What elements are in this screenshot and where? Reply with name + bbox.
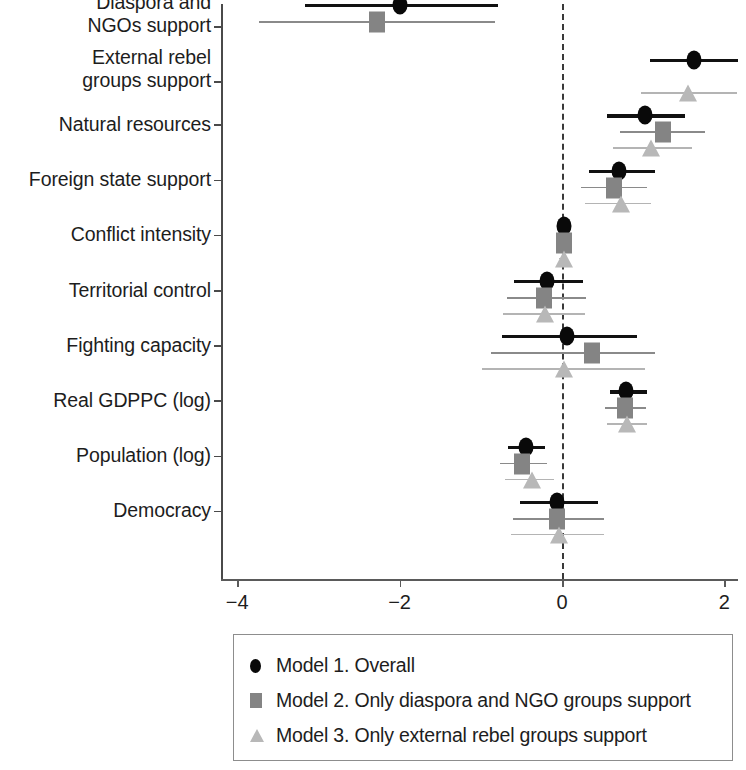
y-axis-tick (214, 400, 221, 402)
y-axis-tick (214, 81, 221, 83)
y-axis-label: Conflict intensity (0, 223, 211, 246)
circle-marker-icon (250, 659, 276, 673)
y-axis-tick (214, 235, 221, 237)
y-axis-label: Real GDPPC (log) (0, 389, 211, 412)
y-axis-tick (214, 511, 221, 513)
estimate-point-triangle (550, 526, 568, 543)
y-axis-label: Foreign state support (0, 168, 211, 191)
zero-reference-line (562, 4, 564, 579)
estimate-point-triangle (523, 471, 541, 488)
legend-item-label: Model 1. Overall (276, 654, 415, 677)
legend-item: Model 3. Only external rebel groups supp… (250, 718, 732, 753)
legend-item: Model 1. Overall (250, 648, 732, 683)
legend-item-label: Model 2. Only diaspora and NGO groups su… (276, 689, 691, 712)
x-axis-tick-label: −4 (226, 591, 249, 614)
y-axis-tick (214, 124, 221, 126)
coefficient-plot-figure: Diaspora and NGOs supportExternal rebel … (0, 0, 746, 770)
x-axis-tick-label: 0 (556, 591, 567, 614)
y-axis-label: External rebel groups support (0, 46, 211, 92)
y-axis-tick (214, 290, 221, 292)
estimate-point-triangle (555, 361, 573, 378)
estimate-point-circle (392, 0, 407, 15)
y-axis-label: Territorial control (0, 279, 211, 302)
legend-item: Model 2. Only diaspora and NGO groups su… (250, 683, 732, 718)
x-axis-line (221, 579, 738, 581)
estimate-point-triangle (612, 195, 630, 212)
estimate-point-circle (559, 327, 574, 346)
plot-area: Diaspora and NGOs supportExternal rebel … (0, 0, 746, 600)
estimate-point-triangle (679, 85, 697, 102)
y-axis-tick (214, 456, 221, 458)
estimate-point-square (584, 343, 600, 364)
estimate-point-triangle (536, 306, 554, 323)
estimate-point-triangle (642, 140, 660, 157)
triangle-marker-icon (250, 729, 276, 742)
legend-item-label: Model 3. Only external rebel groups supp… (276, 724, 647, 747)
x-axis-tick-label: 2 (719, 591, 730, 614)
estimate-point-square (369, 12, 385, 33)
estimate-point-triangle (618, 416, 636, 433)
y-axis-label: Natural resources (0, 113, 211, 136)
x-axis-tick-label: −2 (388, 591, 411, 614)
estimate-point-circle (687, 51, 702, 70)
y-axis-line (221, 4, 223, 579)
square-marker-icon (250, 693, 276, 708)
estimate-point-circle (637, 106, 652, 125)
x-axis-tick (400, 579, 402, 587)
confidence-interval-bar (491, 352, 656, 354)
y-axis-label: Population (log) (0, 444, 211, 467)
y-axis-tick (214, 180, 221, 182)
y-axis-label: Democracy (0, 499, 211, 522)
estimate-point-triangle (555, 250, 573, 267)
y-axis-label: Fighting capacity (0, 334, 211, 357)
x-axis-tick (562, 579, 564, 587)
y-axis-label: Diaspora and NGOs support (0, 0, 211, 37)
legend: Model 1. Overall Model 2. Only diaspora … (233, 634, 733, 761)
y-axis-tick (214, 345, 221, 347)
y-axis-tick (214, 26, 221, 28)
x-axis-tick (237, 579, 239, 587)
x-axis-tick (724, 579, 726, 587)
